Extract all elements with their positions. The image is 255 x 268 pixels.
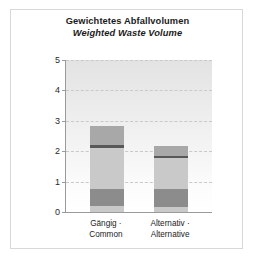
- bar-segment: [154, 207, 188, 212]
- gridline: [66, 60, 212, 61]
- y-tick-label: 1: [40, 177, 60, 187]
- x-axis-tick-labels: Gängig ·CommonAlternativ ·Alternative: [65, 218, 211, 248]
- y-tick-label: 5: [40, 55, 60, 65]
- bar-segment: [90, 189, 124, 206]
- x-tick-label-line-en: Alternative: [128, 229, 212, 240]
- bar-segment: [154, 146, 188, 156]
- y-axis-label-wrapper: Bewertung · Rating: [0, 60, 2, 212]
- bar-segment: [90, 148, 124, 189]
- y-tick-label: 0: [40, 207, 60, 217]
- bar: [154, 146, 188, 212]
- bar-segment: [154, 156, 188, 158]
- y-tick-label: 4: [40, 85, 60, 95]
- gridline: [66, 182, 212, 183]
- bar: [90, 126, 124, 212]
- chart-title-block: Gewichtetes Abfallvolumen Weighted Waste…: [0, 16, 255, 40]
- x-tick-label-line-de: Alternativ ·: [128, 218, 212, 229]
- chart-figure: Gewichtetes Abfallvolumen Weighted Waste…: [0, 0, 255, 268]
- gridline: [66, 151, 212, 152]
- chart-subtitle: Weighted Waste Volume: [0, 28, 255, 40]
- plot-area: [65, 60, 212, 213]
- bar-segment: [90, 206, 124, 212]
- page-title: Gewichtetes Abfallvolumen: [0, 16, 255, 28]
- y-tick-label: 3: [40, 116, 60, 126]
- y-tick-label: 2: [40, 146, 60, 156]
- bar-segment: [90, 145, 124, 148]
- bar-segment: [154, 189, 188, 207]
- gridline: [66, 90, 212, 91]
- y-axis-label: Bewertung · Rating: [0, 60, 2, 212]
- gridline: [66, 121, 212, 122]
- bar-segment: [154, 158, 188, 189]
- x-tick-label: Alternativ ·Alternative: [128, 218, 212, 240]
- y-axis-tick-labels: 012345: [38, 60, 60, 212]
- bar-segment: [90, 126, 124, 145]
